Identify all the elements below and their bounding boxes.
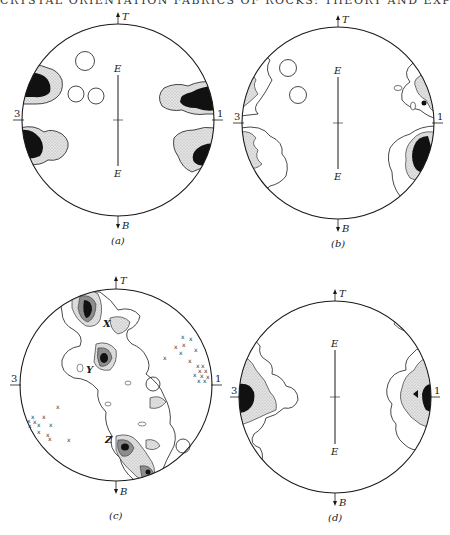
left-label-3: 3 — [11, 373, 17, 384]
bottom-label-B: B — [338, 497, 346, 508]
left-label-3: 3 — [14, 108, 20, 119]
panel-caption: (b) — [331, 238, 345, 249]
point-cluster-lower-left: x x x x x x x x x x x x — [27, 403, 71, 443]
top-label-T: T — [120, 275, 128, 286]
axis-bottom-label: E — [333, 171, 342, 182]
svg-text:x: x — [67, 436, 71, 443]
svg-text:x: x — [188, 357, 192, 364]
bottom-label-B: B — [119, 486, 127, 497]
arrow-down-icon — [116, 224, 120, 229]
svg-text:x: x — [37, 428, 41, 435]
svg-text:x: x — [206, 373, 210, 380]
arrow-down-icon — [333, 501, 337, 506]
svg-text:x: x — [194, 346, 198, 353]
maximum-label-Y: Y — [86, 364, 94, 375]
panel-d: E E T B 3 1 (d) — [230, 288, 440, 523]
svg-text:x: x — [56, 403, 60, 410]
svg-text:x: x — [163, 354, 167, 361]
left-label-3: 3 — [234, 111, 240, 122]
svg-text:x: x — [182, 341, 186, 348]
empty-circle — [290, 87, 307, 104]
maximum-label-Z: Z — [104, 434, 113, 445]
arrow-down-icon — [114, 489, 118, 494]
top-label-T: T — [342, 14, 350, 25]
bottom-label-B: B — [121, 220, 129, 231]
right-label-1: 1 — [217, 108, 223, 119]
empty-circle — [88, 88, 104, 104]
arrow-up-icon — [336, 15, 340, 20]
empty-circle — [68, 86, 84, 102]
panel-caption: (a) — [111, 235, 125, 246]
arrow-up-icon — [333, 289, 337, 294]
arrow-down-icon — [336, 227, 340, 232]
panel-caption: (d) — [328, 512, 342, 523]
axis-top-label: E — [113, 63, 122, 74]
svg-text:x: x — [197, 377, 201, 384]
left-label-3: 3 — [231, 385, 237, 396]
axis-top-label: E — [333, 65, 342, 76]
empty-circle — [176, 439, 190, 453]
axis-bottom-label: E — [330, 446, 339, 457]
svg-text:x: x — [203, 377, 207, 384]
svg-text:x: x — [48, 435, 52, 442]
top-label-T: T — [339, 288, 347, 299]
empty-circle — [76, 52, 95, 71]
top-label-T: T — [122, 11, 130, 22]
empty-circle — [280, 60, 297, 77]
right-label-1: 1 — [434, 385, 440, 396]
svg-text:x: x — [174, 343, 178, 350]
svg-text:x: x — [179, 349, 183, 356]
svg-text:x: x — [42, 413, 46, 420]
arrow-up-icon — [114, 276, 118, 281]
svg-text:x: x — [28, 422, 32, 429]
panel-b: E E T B 3 1 (b) — [233, 14, 443, 249]
panel-a: E E T B 3 1 (a) — [13, 11, 223, 246]
fabric-diagram-figure: E E T B 3 1 (a) — [0, 0, 450, 535]
maximum-label-X: X — [102, 318, 112, 329]
right-label-1: 1 — [215, 373, 221, 384]
panel-c-contours — [60, 289, 175, 481]
panel-c: X Y Z x x x x x x x x x x x x x x x x x … — [10, 275, 222, 521]
svg-text:x: x — [189, 335, 193, 342]
axis-bottom-label: E — [113, 168, 122, 179]
svg-text:x: x — [37, 421, 41, 428]
svg-text:x: x — [181, 333, 185, 340]
panel-caption: (c) — [109, 510, 123, 521]
right-label-1: 1 — [437, 111, 443, 122]
axis-top-label: E — [330, 338, 339, 349]
arrow-up-icon — [116, 12, 120, 17]
bottom-label-B: B — [341, 223, 349, 234]
svg-text:x: x — [49, 421, 53, 428]
point-cluster-upper-right: x x x x x x x x x x x x x x x x x — [163, 333, 210, 384]
